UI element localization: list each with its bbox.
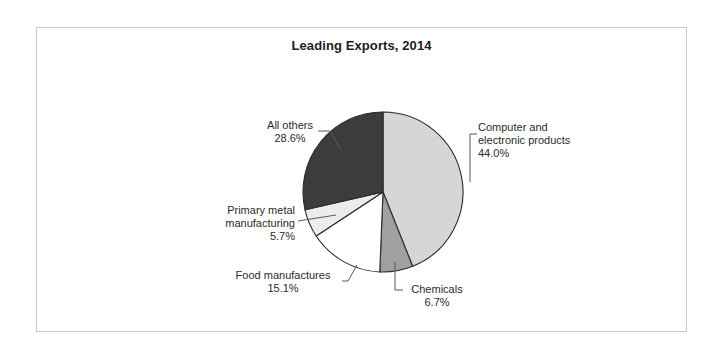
slice-label-computer-and-electronic-products: Computer and electronic products 44.0% [478, 121, 570, 161]
leader-line-computer-and-electronic-products [470, 134, 477, 182]
slice-label-line-1: Chemicals [404, 283, 470, 296]
slice-label-line-2: electronic products [478, 134, 570, 147]
pie-diagram [0, 0, 723, 354]
slice-label-primary-metal-manufacturing: Primary metal manufacturing 5.7% [189, 204, 295, 244]
slice-label-line-1: Primary metal [189, 204, 295, 217]
slice-value-computer-and-electronic-products: 44.0% [478, 147, 570, 160]
slice-label-line-1: Food manufactures [222, 269, 344, 282]
slice-value-food-manufactures: 15.1% [222, 282, 344, 295]
slice-value-chemicals: 6.7% [404, 296, 470, 309]
slice-label-chemicals: Chemicals 6.7% [404, 283, 470, 309]
slice-label-all-others: All others 28.6% [248, 119, 332, 145]
slice-value-primary-metal-manufacturing: 5.7% [189, 230, 295, 243]
pie-chart-screenshot: Leading Exports, 2014 Computer and ele [0, 0, 723, 354]
pie-chart-area: Computer and electronic products 44.0% A… [0, 0, 723, 354]
slice-label-line-1: All others [248, 119, 332, 132]
slice-label-line-2: manufacturing [189, 217, 295, 230]
slice-value-all-others: 28.6% [248, 132, 332, 145]
slice-label-line-1: Computer and [478, 121, 570, 134]
slice-label-food-manufactures: Food manufactures 15.1% [222, 269, 344, 295]
